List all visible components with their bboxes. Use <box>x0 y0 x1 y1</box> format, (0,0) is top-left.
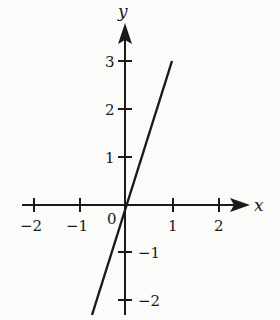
chart-canvas: y x 0 −2 −1 1 2 3 2 1 −1 −2 <box>0 0 280 320</box>
x-axis-label: x <box>254 195 264 215</box>
y-tick-label: 3 <box>105 53 115 71</box>
function-line <box>92 61 172 315</box>
y-tick-label: 1 <box>105 149 115 167</box>
x-tick-label: −1 <box>66 217 88 235</box>
y-tick-label: −1 <box>138 244 160 262</box>
y-tick-label: −2 <box>138 292 160 310</box>
y-axis <box>118 23 132 315</box>
x-tick-label: 1 <box>168 217 178 235</box>
coordinate-plane: y x 0 −2 −1 1 2 3 2 1 −1 −2 <box>0 0 280 320</box>
y-tick-label: 2 <box>105 101 115 119</box>
y-axis-label: y <box>117 1 128 21</box>
x-axis <box>22 198 250 212</box>
origin-label: 0 <box>107 210 117 228</box>
x-tick-label: 2 <box>214 217 224 235</box>
x-tick-label: −2 <box>20 217 42 235</box>
